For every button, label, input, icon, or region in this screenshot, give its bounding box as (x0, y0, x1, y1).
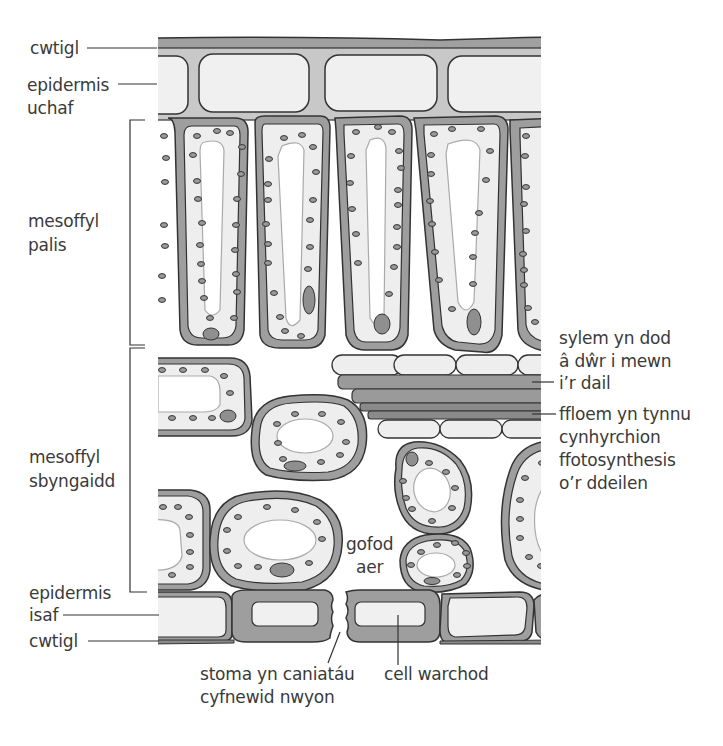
guard-cell-left (232, 590, 333, 642)
label-lower-epidermis-1: epidermis (29, 582, 111, 605)
lower-epidermis (150, 590, 560, 642)
label-phloem-1: ffloem yn tynnu (559, 403, 691, 426)
label-lower-epidermis-2: isaf (29, 604, 58, 627)
label-phloem-2: cynhyrchion (559, 426, 660, 449)
label-phloem-3: ffotosynthesis (559, 449, 676, 472)
vascular-bundle (332, 355, 568, 438)
label-upper-epidermis-2: uchaf (27, 97, 73, 120)
label-stoma-2: cyfnewid nwyon (200, 686, 335, 709)
label-phloem-4: o’r ddeilen (559, 472, 648, 495)
upper-epidermis (140, 48, 560, 120)
palisade-mesophyll (159, 116, 561, 352)
label-xylem-3: i’r dail (559, 372, 611, 395)
label-palisade-2: palis (28, 234, 67, 257)
label-stoma-1: stoma yn caniatáu (200, 663, 355, 686)
label-xylem-1: sylem yn dod (559, 327, 671, 350)
xylem-vessels (338, 375, 568, 403)
label-air-space-2: aer (356, 556, 383, 579)
label-cuticle-top: cwtigl (30, 37, 79, 60)
label-spongy-2: sbyngaidd (29, 470, 115, 493)
label-palisade-1: mesoffyl (28, 210, 99, 233)
label-cuticle-bottom: cwtigl (29, 630, 78, 653)
label-spongy-1: mesoffyl (29, 446, 100, 469)
label-upper-epidermis-1: epidermis (27, 74, 109, 97)
label-air-space-1: gofod (346, 533, 393, 556)
label-xylem-2: â dŵr i mewn (559, 350, 671, 373)
label-guard-cell: cell warchod (384, 663, 489, 686)
diagram-canvas (0, 0, 723, 746)
guard-cell-right (346, 590, 440, 642)
phloem-tubes (360, 403, 568, 419)
leaf-cross-section-diagram: cwtigl epidermis uchaf mesoffyl palis me… (0, 0, 723, 746)
